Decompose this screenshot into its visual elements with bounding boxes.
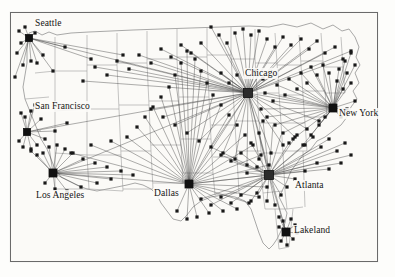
figure-canvas: Seattle San Francisco Los Angeles Dallas… xyxy=(0,0,395,277)
hub-label-san-francisco: San Francisco xyxy=(34,101,91,112)
network-map-svg xyxy=(11,13,377,261)
hub-marker-seattle xyxy=(26,35,33,42)
hub-label-dallas: Dallas xyxy=(153,188,180,199)
hub-marker-atlanta xyxy=(265,171,274,180)
map-frame: Seattle San Francisco Los Angeles Dallas… xyxy=(10,12,378,262)
destination-nodes xyxy=(13,25,356,246)
hub-label-atlanta: Atlanta xyxy=(294,180,325,191)
hub-label-chicago: Chicago xyxy=(244,68,278,79)
hub-marker-new-york xyxy=(329,104,337,112)
hub-label-lakeland: Lakeland xyxy=(293,225,331,236)
hub-label-los-angeles: Los Angeles xyxy=(35,190,85,201)
hub-marker-dallas xyxy=(185,180,193,188)
hub-label-new-york: New York xyxy=(338,108,379,119)
hub-label-seattle: Seattle xyxy=(34,18,63,29)
hub-marker-san-francisco xyxy=(24,129,31,136)
hub-marker-lakeland xyxy=(282,228,290,236)
hub-marker-los-angeles xyxy=(49,169,57,177)
hub-marker-chicago xyxy=(244,89,253,98)
chicago-spokes xyxy=(27,27,351,232)
network-spokes xyxy=(15,27,355,245)
